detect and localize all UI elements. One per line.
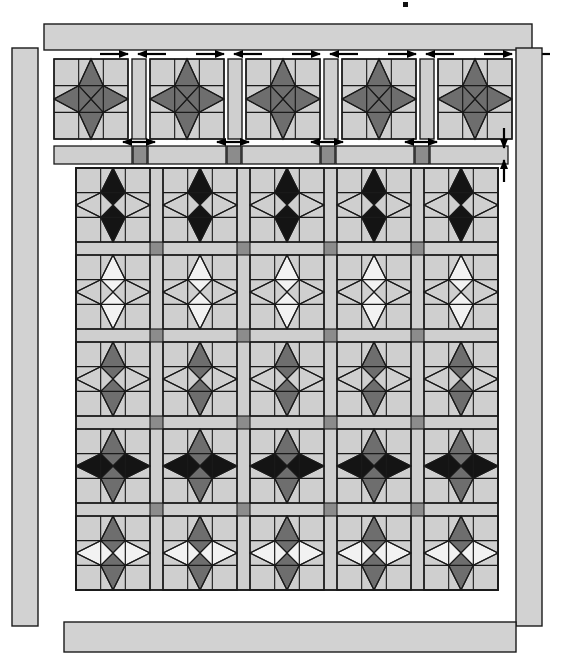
quilt-block xyxy=(163,168,237,242)
top-row-sashing-strip xyxy=(132,59,146,139)
quilt-diagram-svg xyxy=(0,0,577,659)
sashing-cornerstone xyxy=(237,416,250,429)
quilt-block xyxy=(163,255,237,329)
right-border-strip xyxy=(516,48,542,626)
sashing-cornerstone xyxy=(150,242,163,255)
horizontal-sashing-segment xyxy=(336,146,414,164)
left-border-strip xyxy=(12,48,38,626)
sashing-cornerstone xyxy=(321,146,335,164)
top-row-block xyxy=(246,59,320,139)
quilt-block xyxy=(76,168,150,242)
quilt-block xyxy=(424,255,498,329)
sashing-cornerstone xyxy=(150,416,163,429)
quilt-block xyxy=(76,255,150,329)
top-row-block xyxy=(438,59,512,139)
top-row-sashing-strip xyxy=(228,59,242,139)
quilt-block xyxy=(337,342,411,416)
horizontal-sashing-segment xyxy=(148,146,226,164)
registration-mark xyxy=(403,2,408,7)
quilt-block xyxy=(76,516,150,590)
top-border-strip xyxy=(44,24,532,50)
quilt-block xyxy=(250,168,324,242)
horizontal-sashing-segment xyxy=(54,146,132,164)
sashing-cornerstone xyxy=(324,242,337,255)
quilt-block xyxy=(424,429,498,503)
quilt-block xyxy=(163,516,237,590)
quilt-block xyxy=(250,255,324,329)
horizontal-sashing-segment xyxy=(430,146,508,164)
sashing-cornerstone xyxy=(411,503,424,516)
horizontal-sashing-segment xyxy=(242,146,320,164)
quilt-block xyxy=(424,342,498,416)
sashing-cornerstone xyxy=(324,416,337,429)
sashing-cornerstone xyxy=(133,146,147,164)
sashing-cornerstone xyxy=(324,329,337,342)
top-row-sashing-strip xyxy=(324,59,338,139)
sashing-cornerstone xyxy=(150,329,163,342)
sashing-cornerstone xyxy=(411,242,424,255)
quilt-block xyxy=(76,429,150,503)
sashing-cornerstone xyxy=(324,503,337,516)
quilt-block xyxy=(250,516,324,590)
top-row-block xyxy=(342,59,416,139)
bottom-border-strip xyxy=(64,622,516,652)
sashing-cornerstone xyxy=(150,503,163,516)
top-row-sashing-strip xyxy=(420,59,434,139)
sashing-cornerstone xyxy=(411,329,424,342)
quilt-block xyxy=(163,429,237,503)
quilt-block xyxy=(337,168,411,242)
sashing-cornerstone xyxy=(415,146,429,164)
sashing-cornerstone xyxy=(237,503,250,516)
sashing-cornerstone xyxy=(237,329,250,342)
quilt-block xyxy=(424,516,498,590)
quilt-block xyxy=(337,516,411,590)
quilt-block xyxy=(163,342,237,416)
sashing-cornerstone xyxy=(237,242,250,255)
top-row-block xyxy=(150,59,224,139)
top-row-block xyxy=(54,59,128,139)
sashing-cornerstone xyxy=(227,146,241,164)
quilt-block xyxy=(337,255,411,329)
quilt-block xyxy=(337,429,411,503)
quilt-diagram-canvas xyxy=(0,0,577,659)
quilt-block xyxy=(76,342,150,416)
quilt-block xyxy=(250,429,324,503)
quilt-block xyxy=(424,168,498,242)
sashing-cornerstone xyxy=(411,416,424,429)
quilt-block xyxy=(250,342,324,416)
